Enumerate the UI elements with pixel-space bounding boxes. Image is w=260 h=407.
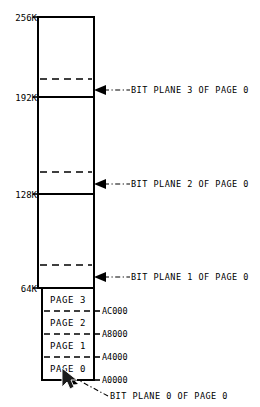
address-label-a4000: A4000 <box>102 352 128 362</box>
page-label-page2: PAGE 2 <box>50 318 86 328</box>
memory-map-diagram: 256K 192K 128K 64K BIT PLANE 3 OF PAGE 0… <box>0 0 260 407</box>
address-label-a8000: A8000 <box>102 329 128 339</box>
callout-bit-plane-2: BIT PLANE 2 OF PAGE 0 <box>131 179 249 189</box>
arrowhead-plane2 <box>94 179 106 189</box>
diagram-canvas: 256K 192K 128K 64K BIT PLANE 3 OF PAGE 0… <box>0 0 260 407</box>
scale-label-128k: 128K <box>15 190 37 200</box>
address-label-ac000: AC000 <box>102 306 128 316</box>
callout-bit-plane-3: BIT PLANE 3 OF PAGE 0 <box>131 85 249 95</box>
callout-bit-plane-0: BIT PLANE 0 OF PAGE 0 <box>110 391 228 401</box>
page-label-page1: PAGE 1 <box>50 341 86 351</box>
scale-label-192k: 192K <box>15 93 37 103</box>
arrowhead-plane1 <box>94 272 106 282</box>
memory-column-outline <box>38 17 94 288</box>
address-label-a0000: A0000 <box>102 375 128 385</box>
scale-label-256k: 256K <box>15 13 37 23</box>
callout-bit-plane-1: BIT PLANE 1 OF PAGE 0 <box>131 272 249 282</box>
scale-label-64k: 64K <box>21 284 38 294</box>
arrowhead-plane3 <box>94 85 106 95</box>
page-label-page3: PAGE 3 <box>50 295 86 305</box>
